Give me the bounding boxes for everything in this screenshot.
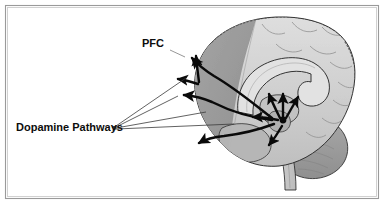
pathway-origin-hub: [280, 117, 287, 124]
figure-root: PFC Dopamine Pathways: [0, 0, 384, 204]
leader-line-pfc: [170, 50, 185, 57]
leader-line-2: [116, 78, 186, 126]
pfc-pointer-line: [170, 50, 185, 57]
brain-illustration: [195, 17, 355, 190]
dopamine-pathways-label: Dopamine Pathways: [16, 121, 123, 133]
pfc-label: PFC: [142, 37, 164, 49]
brain-diagram-canvas: PFC Dopamine Pathways: [0, 0, 384, 204]
